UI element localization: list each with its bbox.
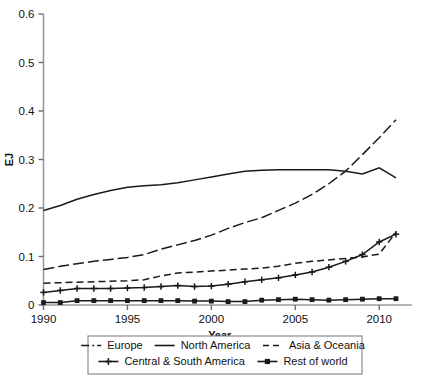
legend-label: North America: [181, 339, 252, 351]
series-marker: [175, 298, 180, 303]
x-tick-label: 1990: [31, 313, 57, 325]
series-marker: [343, 297, 348, 302]
series-line-europe: [44, 120, 397, 270]
legend-label: Asia & Oceania: [289, 339, 366, 351]
legend-label: Europe: [107, 339, 142, 351]
y-tick-label: 0.5: [19, 57, 35, 69]
y-tick-label: 0.6: [19, 8, 35, 20]
legend-label: Central & South America: [124, 355, 245, 367]
series-marker: [58, 300, 63, 305]
legend-swatch-marker: [265, 359, 270, 364]
series-line-rest-of-world: [44, 299, 397, 303]
y-tick-label: 0.2: [19, 202, 35, 214]
series-marker: [394, 296, 399, 301]
series-marker: [276, 297, 281, 302]
series-line-central-south-america: [44, 234, 397, 292]
series-marker: [243, 299, 248, 304]
series-marker: [377, 296, 382, 301]
x-tick-label: 2010: [366, 313, 392, 325]
series-marker: [159, 298, 164, 303]
series-marker: [75, 298, 80, 303]
y-tick-label: 0: [28, 299, 34, 311]
y-axis-title: EJ: [3, 153, 15, 166]
series-marker: [142, 298, 147, 303]
series-marker: [41, 300, 46, 305]
series-marker: [293, 297, 298, 302]
series-marker: [209, 299, 214, 304]
series-marker: [226, 299, 231, 304]
series-marker: [108, 298, 113, 303]
line-chart: 00.10.20.30.40.50.619901995200020052010Y…: [0, 0, 440, 380]
x-tick-label: 1995: [115, 313, 141, 325]
series-line-north-america: [44, 168, 397, 211]
series-marker: [310, 297, 315, 302]
series-marker: [192, 299, 197, 304]
x-tick-label: 2000: [199, 313, 225, 325]
chart-root: 00.10.20.30.40.50.619901995200020052010Y…: [0, 0, 440, 380]
series-marker: [326, 298, 331, 303]
series-line-asia-oceania: [44, 232, 397, 283]
x-tick-label: 2005: [282, 313, 308, 325]
series-marker: [91, 298, 96, 303]
y-tick-label: 0.4: [19, 105, 36, 117]
y-tick-label: 0.3: [19, 154, 35, 166]
legend-label: Rest of world: [283, 355, 347, 367]
series-marker: [125, 298, 130, 303]
series-marker: [259, 298, 264, 303]
series-marker: [360, 297, 365, 302]
y-tick-label: 0.1: [19, 251, 35, 263]
